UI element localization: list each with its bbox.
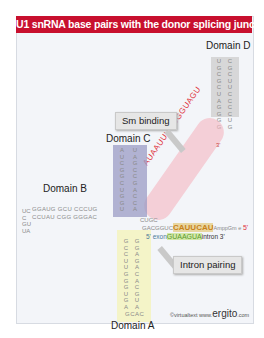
sm-site-3prime-label: 3' (216, 142, 220, 148)
u1-cap: AmppGm e (213, 225, 241, 231)
figure-title: U1 snRNA base pairs with the donor splic… (16, 16, 252, 33)
credit-suffix: .com (237, 312, 249, 318)
domain-b-label: Domain B (43, 183, 87, 194)
domain-b-loop: UCC GUUA (22, 208, 32, 234)
domain-a-right-strand: GGAGACACGUA (134, 238, 140, 311)
domain-a-label: Domain A (111, 320, 154, 331)
domain-d-right-strand: CGCUUCCCCUG (227, 58, 233, 131)
domain-b-top-strand: GGAUG GCU CCCUG (32, 206, 98, 213)
sm-binding-callout: Sm binding (115, 112, 177, 130)
intron-label: intron 3' (202, 233, 225, 240)
u1-prefix-seq: GACGGUC (142, 225, 173, 231)
domain-c-label: Domain C (106, 133, 150, 144)
domain-c-left-strand: AUCGGCUGGU (119, 147, 125, 213)
credit-brand: ergito (212, 308, 237, 319)
u1-5prime-prefix: GACGGUCCAUUCAUAmppGm e 5' (142, 223, 248, 232)
intron-pairing-seq: GUAAGUA (167, 233, 202, 240)
u1-pairing-seq: CAUUCAU (173, 223, 213, 232)
intron-pairing-callout: Intron pairing (173, 256, 242, 274)
domain-d-label: Domain D (206, 40, 250, 51)
credit-line: ©virtualtext www.ergito.com (170, 308, 249, 319)
intron-pairing-line: 5' exonGUAAGUAintron 3' (146, 233, 225, 240)
exon-label: 5' exon (146, 233, 167, 240)
credit-prefix: ©virtualtext www. (170, 312, 212, 318)
domain-a-left-strand: GCCUUGGGUGA (123, 238, 129, 311)
domain-a-loop: GCAC (125, 311, 144, 318)
domain-b-bottom-strand: CCUAU CGG GGGAC (32, 214, 97, 221)
u1-5prime-label: 5' (243, 224, 248, 231)
domain-c-right-strand: UAGCCGACCA (132, 147, 138, 213)
